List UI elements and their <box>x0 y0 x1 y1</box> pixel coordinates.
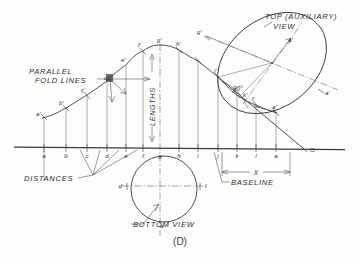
station-label-k: k <box>235 152 239 159</box>
station-label-l: l <box>255 152 257 159</box>
station-label-c: c <box>85 152 89 159</box>
curve-label-f-prime: f' <box>138 41 142 48</box>
bottom-view-circle <box>131 156 197 222</box>
main-annotations: PARALLEL FOLD LINES DISTANCES BASELINE B… <box>24 12 337 247</box>
curve-label-a-prime: a' <box>36 110 41 117</box>
baseline-line <box>14 147 345 149</box>
curve-label-h-prime: h' <box>176 40 181 47</box>
curve-label-e-prime: e' <box>121 56 126 63</box>
aux-label-a-prime-right: a' <box>325 89 330 96</box>
curve-label-b-prime: b' <box>59 99 64 106</box>
lengths-dimension-group: LENGTHS <box>146 54 159 142</box>
aux-label-g-prime: g' <box>197 28 202 35</box>
station-label-a: a <box>42 152 46 159</box>
station-label-g: g <box>158 152 162 159</box>
station-label-d: d <box>105 152 109 159</box>
figure-label: (D) <box>173 236 187 247</box>
bottom-view-group <box>122 156 206 224</box>
parallel-fold-lines-group <box>44 44 276 236</box>
curve-label-k-prime: k' <box>243 91 248 98</box>
distances-leader-5 <box>78 175 93 178</box>
aux-tick-a-prime-right <box>318 89 324 93</box>
origin-label-o: O <box>310 146 315 153</box>
top-view-leader <box>264 22 272 27</box>
aux-label-a-prime-inner: a' <box>288 36 293 43</box>
aux-view-point-labels: g' a' a' 90° <box>197 28 330 96</box>
station-label-a2: a <box>274 152 278 159</box>
top-view-callout-group <box>264 22 272 27</box>
distances-leader-2 <box>93 150 100 175</box>
curve-label-a2-prime: a' <box>272 103 277 110</box>
aux-connector-g <box>206 36 272 63</box>
baseline-group <box>14 147 345 149</box>
curve-label-c-prime: c' <box>81 86 86 93</box>
curve-label-i-prime: i' <box>214 67 217 74</box>
x-dimension-label: X <box>253 169 259 176</box>
bottom-view-label-d: d <box>119 182 123 189</box>
station-label-i: i <box>197 152 199 159</box>
curve-label-g-prime: g' <box>157 36 162 43</box>
station-label-f: f <box>142 152 145 159</box>
lengths-label: LENGTHS <box>148 87 157 126</box>
station-label-e: e <box>124 152 128 159</box>
distances-label: DISTANCES <box>24 174 73 183</box>
station-label-b: b <box>64 152 68 159</box>
parallel-fold-lines-label-line1: PARALLEL <box>29 67 72 76</box>
oblique-line-group <box>218 77 307 152</box>
top-view-label-line2: VIEW <box>273 22 295 31</box>
aux-connector-i <box>218 63 272 77</box>
baseline-label: BASELINE <box>231 178 274 187</box>
station-label-j: j <box>216 152 219 159</box>
bottom-view-label-l: l <box>205 182 207 189</box>
curve-label-l-prime: l' <box>252 95 255 102</box>
top-view-label-line1: TOP (AUXILIARY) <box>265 12 337 21</box>
parallel-fold-lines-label-line2: FOLD LINES <box>35 76 86 85</box>
engineering-drawing-figure: LENGTHS X a' b' c' <box>0 0 359 262</box>
station-label-h: h <box>177 152 181 159</box>
bottom-view-label: BOTTOM VIEW <box>133 220 195 229</box>
oblique-cut-line <box>218 77 304 149</box>
angle-90-label: 90° <box>233 85 243 92</box>
